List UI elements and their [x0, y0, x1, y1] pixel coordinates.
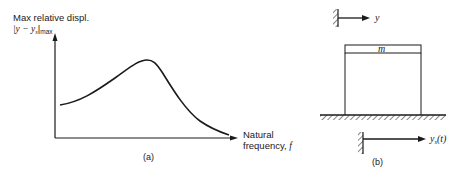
caption-b: (b) — [372, 157, 383, 168]
top-arrow-label: y — [375, 12, 379, 23]
top-fixed-wall — [333, 9, 338, 27]
y-axis — [53, 33, 58, 138]
arrow-right-icon — [418, 136, 426, 142]
x-axis — [55, 136, 238, 141]
ground — [320, 115, 446, 120]
ground-arrow-label: ys(t) — [430, 133, 446, 147]
y-axis-label: Max relative displ. |y − ys|max — [13, 12, 89, 37]
x-axis-arrow-icon — [230, 136, 238, 141]
x-axis-label: Natural frequency, f — [243, 129, 292, 152]
bottom-fixed-wall — [358, 132, 363, 154]
structure-frame — [345, 45, 421, 115]
mass-label: m — [378, 43, 385, 54]
response-curve — [60, 60, 229, 135]
caption-a: (a) — [143, 152, 154, 163]
top-displacement-arrow — [338, 15, 370, 21]
ground-displacement-arrow — [363, 136, 426, 142]
arrow-right-icon — [362, 15, 370, 21]
